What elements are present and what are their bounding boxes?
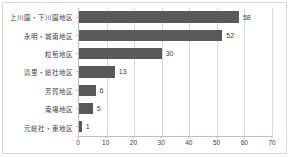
bar xyxy=(79,66,115,77)
category-label: 清里・総社地区 xyxy=(4,63,76,81)
plot-area: 58523013651 xyxy=(78,8,272,137)
category-label: 永明・城南地区 xyxy=(4,26,76,44)
x-axis-tick-label: 70 xyxy=(268,139,275,146)
bar-row: 1 xyxy=(79,118,272,136)
x-axis-tick-label: 20 xyxy=(130,139,137,146)
bar-row: 5 xyxy=(79,99,272,117)
x-axis-tick-label: 50 xyxy=(213,139,220,146)
bar-value-label: 58 xyxy=(243,14,251,21)
bar xyxy=(79,121,82,132)
bar-value-label: 6 xyxy=(100,87,104,94)
category-label: 粒萄地区 xyxy=(4,45,76,63)
bar-row: 58 xyxy=(79,8,272,26)
category-tick xyxy=(76,108,79,109)
bar-row: 52 xyxy=(79,26,272,44)
bar-row: 30 xyxy=(79,45,272,63)
x-axis-tick-label: 60 xyxy=(241,139,248,146)
bar-chart: 上川園・下川園地区永明・城南地区粒萄地区清里・総社地区芳賀地区南場地区元総社・東… xyxy=(0,0,290,157)
category-tick xyxy=(76,90,79,91)
bar xyxy=(79,11,239,22)
bar-value-label: 52 xyxy=(226,32,234,39)
category-tick xyxy=(76,71,79,72)
bar-value-label: 5 xyxy=(97,105,101,112)
bar-row: 6 xyxy=(79,81,272,99)
bar xyxy=(79,103,93,114)
bar-value-label: 30 xyxy=(166,50,174,57)
x-axis-tick-label: 0 xyxy=(76,139,80,146)
bar-value-label: 13 xyxy=(119,68,127,75)
category-label: 上川園・下川園地区 xyxy=(4,8,76,26)
x-axis-tick-label: 30 xyxy=(158,139,165,146)
bar-value-label: 1 xyxy=(86,123,90,130)
bar xyxy=(79,48,162,59)
x-axis-tick-label: 10 xyxy=(102,139,109,146)
category-tick xyxy=(76,17,79,18)
category-tick xyxy=(76,53,79,54)
category-axis: 上川園・下川園地区永明・城南地区粒萄地区清里・総社地区芳賀地区南場地区元総社・東… xyxy=(4,8,76,137)
category-label: 元総社・東地区 xyxy=(4,119,76,137)
bar xyxy=(79,85,96,96)
category-label: 芳賀地区 xyxy=(4,82,76,100)
category-tick xyxy=(76,126,79,127)
x-axis: 010203040506070 xyxy=(78,139,272,151)
bar-series: 58523013651 xyxy=(79,8,272,136)
bar-row: 13 xyxy=(79,63,272,81)
category-label: 南場地区 xyxy=(4,100,76,118)
bar xyxy=(79,30,222,41)
category-tick xyxy=(76,35,79,36)
x-axis-tick-label: 40 xyxy=(185,139,192,146)
